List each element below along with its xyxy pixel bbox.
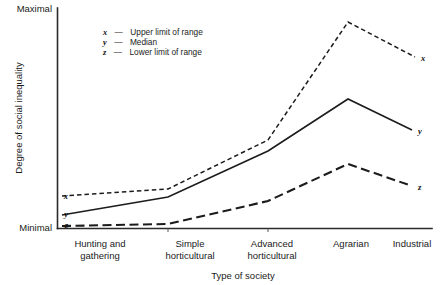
category-label-simple-line1: Simple: [175, 238, 204, 249]
curve-start-tag-lower: z: [64, 220, 69, 230]
curve-end-tag-median: y: [417, 126, 422, 136]
curve-end-tag-upper: x: [420, 53, 426, 63]
inequality-line-chart: Maximal Minimal Degree of social inequal…: [0, 0, 445, 285]
category-label-advanced-line1: Advanced: [251, 238, 293, 249]
category-label-industrial: Industrial: [393, 238, 432, 249]
curve-start-tag-median: y: [63, 209, 68, 219]
y-axis-max-label: Maximal: [17, 3, 52, 14]
category-label-simple-line2: horticultural: [165, 250, 214, 261]
legend-desc-upper: Upper limit of range: [130, 27, 203, 37]
category-label-hunting-line1: Hunting and: [74, 238, 125, 249]
y-axis-min-label: Minimal: [19, 222, 52, 233]
chart-background: [0, 0, 445, 285]
legend-dash-lower: —: [114, 47, 123, 57]
chart-figure: Maximal Minimal Degree of social inequal…: [0, 0, 445, 285]
legend-symbol-lower: z: [102, 48, 107, 57]
category-label-agrarian: Agrarian: [333, 238, 369, 249]
category-label-advanced-line2: horticultural: [247, 250, 296, 261]
curve-end-tag-lower: z: [417, 182, 422, 192]
legend-desc-lower: Lower limit of range: [129, 47, 202, 57]
category-label-hunting-line2: gathering: [80, 250, 120, 261]
curve-start-tag-upper: x: [63, 191, 69, 201]
legend-desc-median: Median: [130, 37, 158, 47]
y-axis-title: Degree of social inequality: [13, 62, 24, 174]
x-axis-title: Type of society: [211, 270, 275, 281]
